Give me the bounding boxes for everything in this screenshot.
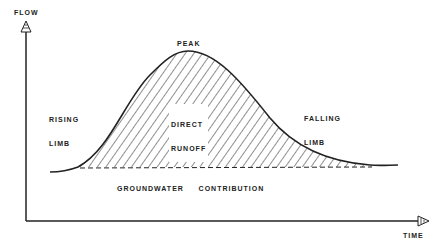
falling-limb-label: FALLING LIMB — [304, 99, 341, 155]
rising-limb-line1: RISING — [49, 116, 79, 124]
baseflow-separation-line — [80, 167, 372, 168]
direct-runoff-line1: DIRECT — [171, 121, 206, 129]
x-axis-arrow-icon — [418, 216, 429, 226]
x-axis-label: TIME — [403, 232, 424, 240]
y-axis-label: FLOW — [14, 9, 39, 17]
rising-limb-line2: LIMB — [49, 140, 79, 148]
rising-limb-label: RISING LIMB — [49, 100, 79, 156]
y-axis-arrow-icon — [21, 21, 31, 32]
falling-limb-line1: FALLING — [304, 115, 341, 123]
groundwater-contribution-label: GROUNDWATER CONTRIBUTION — [117, 185, 264, 193]
direct-runoff-label: DIRECT RUNOFF — [169, 104, 208, 162]
peak-label: PEAK — [177, 40, 200, 48]
falling-limb-line2: LIMB — [304, 139, 341, 147]
direct-runoff-line2: RUNOFF — [171, 145, 206, 153]
